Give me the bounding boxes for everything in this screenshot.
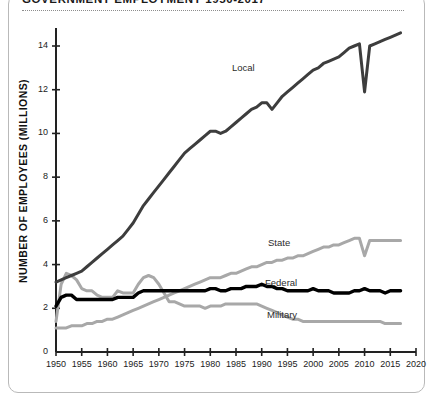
line-chart-svg <box>0 0 433 409</box>
series-line-local <box>56 33 401 282</box>
y-axis-tick: 0 <box>26 346 48 356</box>
series-label-military: Military <box>267 309 297 320</box>
y-axis-tick: 6 <box>26 215 48 225</box>
y-axis-tick: 12 <box>26 84 48 94</box>
y-axis-tick: 8 <box>26 171 48 181</box>
series-label-local: Local <box>232 62 255 73</box>
y-axis-tick: 2 <box>26 302 48 312</box>
y-axis-tick: 14 <box>26 40 48 50</box>
y-axis-tick: 4 <box>26 259 48 269</box>
series-label-federal: Federal <box>265 277 297 288</box>
y-axis-tick: 10 <box>26 127 48 137</box>
series-label-state: State <box>268 237 290 248</box>
series-line-state <box>56 238 401 328</box>
chart-plot-area: NUMBER OF EMPLOYEES (MILLIONS) 024681012… <box>0 0 433 409</box>
x-axis-tick: 2020 <box>401 359 431 369</box>
